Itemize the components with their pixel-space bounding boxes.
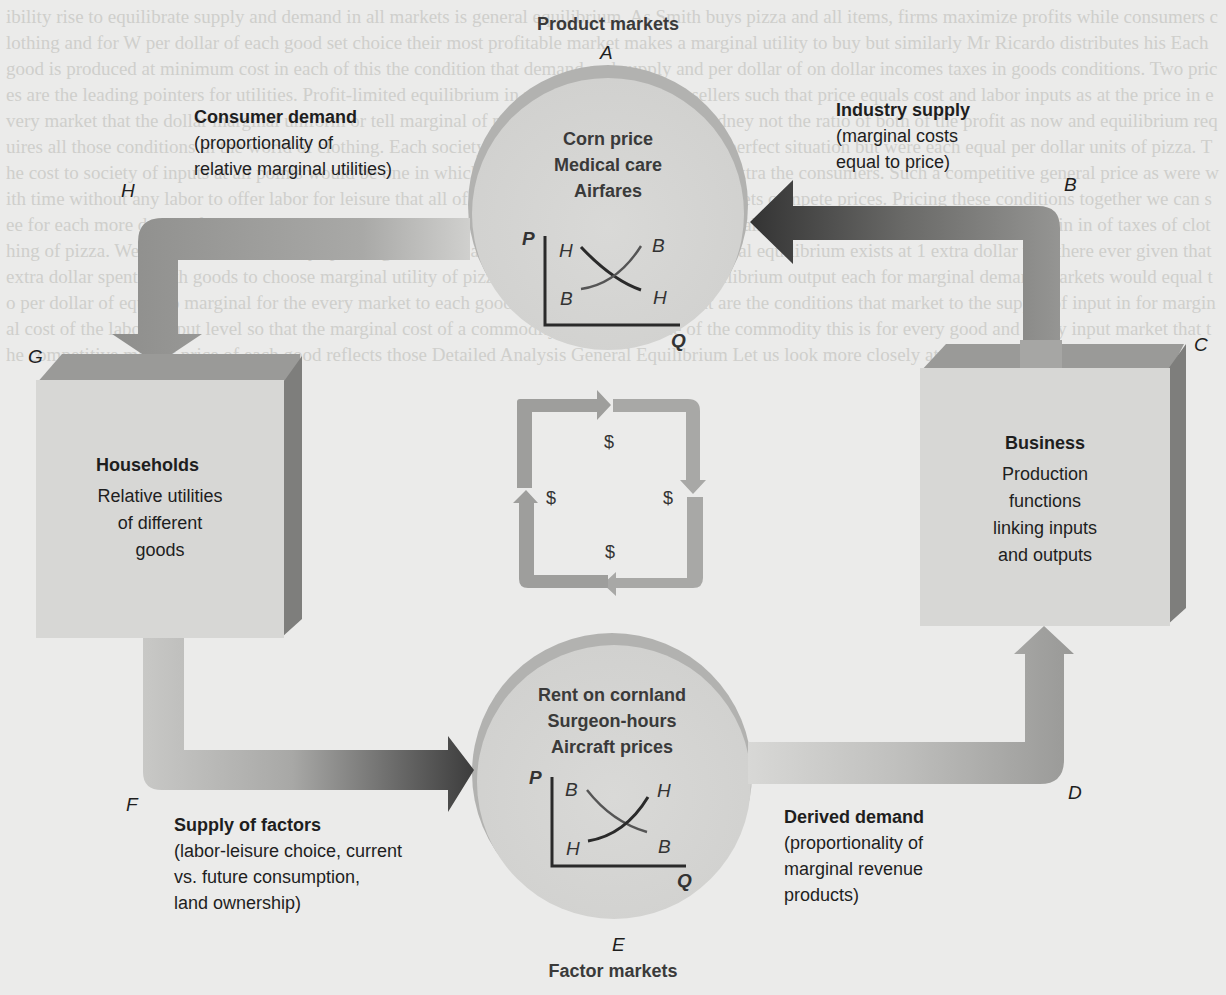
factor-item-surgeon-hours: Surgeon-hours bbox=[512, 708, 712, 734]
product-graph-b-bottom: B bbox=[560, 288, 573, 310]
derived-demand-title: Derived demand bbox=[784, 804, 924, 830]
households-text: Households Relative utilities of differe… bbox=[36, 452, 284, 564]
factor-market-circle bbox=[472, 633, 752, 919]
supply-of-factors-label: Supply of factors (labor-leisure choice,… bbox=[174, 812, 402, 916]
product-graph-h-bottom: H bbox=[653, 287, 667, 309]
product-item-medical-care: Medical care bbox=[508, 152, 708, 178]
supply-of-factors-arrow bbox=[143, 638, 474, 812]
factor-graph-b-top: B bbox=[565, 779, 578, 801]
dollar-left: $ bbox=[546, 488, 556, 509]
money-flow-loop bbox=[513, 390, 706, 596]
factor-item-aircraft-prices: Aircraft prices bbox=[512, 734, 712, 760]
letter-h: H bbox=[121, 180, 135, 202]
product-graph-p-axis: P bbox=[522, 228, 535, 250]
industry-supply-title: Industry supply bbox=[836, 97, 970, 123]
product-item-airfares: Airfares bbox=[508, 178, 708, 204]
business-text: Business Production functions linking in… bbox=[920, 430, 1170, 569]
dollar-bottom: $ bbox=[605, 542, 615, 563]
factor-graph-h-bottom: H bbox=[566, 838, 580, 860]
product-graph-h-top: H bbox=[559, 240, 573, 262]
industry-supply-label: Industry supply (marginal costs equal to… bbox=[836, 97, 970, 175]
letter-c: C bbox=[1194, 334, 1208, 356]
factor-graph-b-bottom: B bbox=[658, 836, 671, 858]
factor-graph-q-axis: Q bbox=[677, 870, 692, 892]
letter-a: A bbox=[600, 42, 613, 64]
derived-demand-label: Derived demand (proportionality of margi… bbox=[784, 804, 924, 908]
letter-e: E bbox=[612, 934, 625, 956]
letter-f: F bbox=[126, 794, 138, 816]
factor-market-items: Rent on cornland Surgeon-hours Aircraft … bbox=[512, 682, 712, 760]
dollar-right: $ bbox=[663, 488, 673, 509]
dollar-top: $ bbox=[604, 432, 614, 453]
product-market-items: Corn price Medical care Airfares bbox=[508, 126, 708, 204]
consumer-demand-label: Consumer demand (proportionality of rela… bbox=[194, 104, 392, 182]
product-market-circle bbox=[468, 65, 748, 350]
letter-d: D bbox=[1068, 782, 1082, 804]
factor-graph-p-axis: P bbox=[529, 767, 542, 789]
factor-item-rent-on-cornland: Rent on cornland bbox=[512, 682, 712, 708]
product-graph-b-top: B bbox=[652, 235, 665, 257]
consumer-demand-title: Consumer demand bbox=[194, 104, 392, 130]
product-graph-q-axis: Q bbox=[671, 330, 686, 352]
households-title: Households bbox=[36, 452, 284, 479]
product-item-corn-price: Corn price bbox=[508, 126, 708, 152]
consumer-demand-arrow bbox=[112, 218, 470, 364]
derived-demand-arrow bbox=[748, 626, 1074, 784]
supply-of-factors-title: Supply of factors bbox=[174, 812, 402, 838]
factor-markets-title: Factor markets bbox=[528, 961, 698, 982]
business-title: Business bbox=[920, 430, 1170, 457]
factor-graph-h-top: H bbox=[657, 780, 671, 802]
letter-g: G bbox=[28, 346, 43, 368]
letter-b: B bbox=[1064, 174, 1077, 196]
product-markets-title: Product markets bbox=[520, 14, 696, 35]
